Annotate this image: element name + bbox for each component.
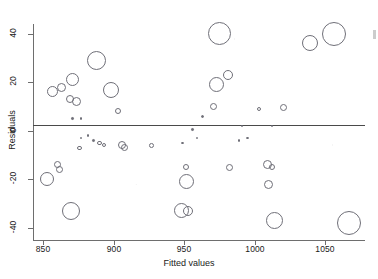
residuals-vs-fitted-scatter-chart: 40200-20-40 85090095010001050 Fitted val… [0,0,378,279]
scatter-point [57,83,66,92]
x-axis-tick-label: 1050 [308,244,342,254]
scatter-point [149,143,154,148]
scatter-point [264,180,273,189]
scatter-point [115,108,121,114]
scatter-point [257,107,261,111]
scatter-point [102,143,106,147]
scatter-point [210,103,217,110]
scatter-point [223,70,233,80]
scatter-point [337,211,361,235]
x-axis-tick-label: 1000 [238,244,272,254]
scatter-point [246,137,249,140]
scatter-point [322,22,346,46]
y-axis-tick-label: 20 [8,70,18,92]
scatter-point [196,137,198,139]
zero-reference-line [33,125,365,126]
scatter-point [183,164,189,170]
scatter-point [302,35,318,51]
scatter-point [121,144,128,151]
scatter-point [208,22,231,45]
y-axis-tick-label: -40 [8,216,18,238]
y-axis-tick-label: -20 [8,167,18,189]
scatter-point [181,142,184,145]
scatter-point [71,117,73,119]
scatter-point [201,115,204,118]
scatter-point [92,139,95,142]
scatter-point [266,212,283,229]
scatter-point [209,77,224,92]
scatter-point [103,82,119,98]
y-axis-tick [28,82,33,83]
scatter-point [179,174,194,189]
scatter-point [226,164,233,171]
scatter-point [56,166,63,173]
y-axis-tick [28,179,33,180]
scatter-point [87,134,89,136]
scatter-point [269,164,275,170]
scatter-point [87,51,106,70]
paper-speckle-texture [0,0,378,279]
x-axis-title: Fitted values [0,258,378,268]
scatter-point [271,125,273,127]
page-edge-mark [373,30,376,39]
x-axis-line [33,240,365,241]
scatter-point [77,146,81,150]
y-axis-tick [28,131,33,132]
y-axis-tick-label: 40 [8,22,18,44]
y-axis-tick [28,228,33,229]
scatter-point [183,206,193,216]
scatter-point [40,172,54,186]
scatter-point [238,139,240,141]
y-axis-tick [28,34,33,35]
scatter-point [80,117,83,120]
scatter-point [97,141,101,145]
y-axis-line [33,24,34,241]
scatter-point [191,128,193,130]
x-axis-tick-label: 850 [26,244,60,254]
scatter-point [80,137,83,140]
scatter-point [66,73,79,86]
y-axis-title: Residuals [7,100,17,160]
scatter-point [241,125,243,127]
x-axis-tick-label: 950 [167,244,201,254]
scatter-point [280,104,287,111]
scatter-point [62,202,80,220]
x-axis-tick-label: 900 [97,244,131,254]
scatter-point [72,97,81,106]
